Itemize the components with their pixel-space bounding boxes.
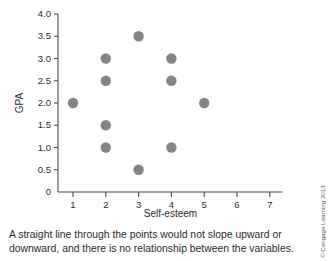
y-tick-label: 1.5 [38, 119, 51, 130]
y-tick-label: 2.5 [38, 75, 51, 86]
y-tick-label: 4.0 [38, 8, 51, 19]
copyright-credit: © Cengage Learning 2013 [316, 176, 329, 258]
y-tick-label: 2.0 [38, 97, 51, 108]
scatter-chart-svg: 00.51.01.52.02.53.03.54.01234567Self-est… [0, 0, 300, 225]
x-tick-label: 5 [202, 199, 207, 210]
x-tick-label: 3 [136, 199, 141, 210]
data-point [166, 53, 176, 63]
data-point [166, 142, 176, 152]
data-point [101, 76, 111, 86]
y-tick-label: 3.0 [38, 53, 51, 64]
x-tick-label: 1 [70, 199, 75, 210]
data-point [101, 142, 111, 152]
data-point [133, 31, 143, 41]
data-point [166, 76, 176, 86]
data-point [199, 98, 209, 108]
data-point [68, 98, 78, 108]
y-tick-label: 0.5 [38, 164, 51, 175]
y-tick-label: 0 [46, 186, 51, 197]
x-tick-label: 2 [103, 199, 108, 210]
data-point [101, 53, 111, 63]
x-axis-title: Self-esteem [144, 208, 197, 219]
scatter-plot-figure: 00.51.01.52.02.53.03.54.01234567Self-est… [0, 0, 329, 261]
chart-plot-area: 00.51.01.52.02.53.03.54.01234567Self-est… [0, 0, 300, 225]
figure-caption: A straight line through the points would… [9, 228, 301, 255]
x-tick-label: 7 [267, 199, 272, 210]
y-tick-label: 1.0 [38, 142, 51, 153]
data-point [101, 120, 111, 130]
y-axis-title: GPA [14, 92, 25, 113]
copyright-credit-text: © Cengage Learning 2013 [319, 185, 326, 258]
x-tick-label: 6 [234, 199, 239, 210]
data-point [133, 165, 143, 175]
y-tick-label: 3.5 [38, 30, 51, 41]
